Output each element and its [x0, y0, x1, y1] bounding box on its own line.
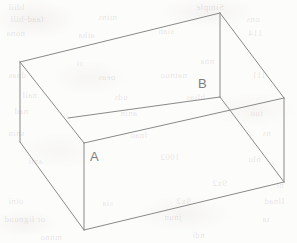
edge-rim-front: [84, 98, 284, 143]
edge-base-front: [84, 182, 284, 230]
edge-inner-floor-back: [68, 97, 220, 118]
edge-rim-back: [20, 13, 220, 62]
edge-inner-floor-right: [220, 97, 284, 182]
edge-rim-left: [20, 62, 84, 143]
edge-rim-right: [220, 13, 284, 98]
edge-base-front-left: [20, 142, 84, 230]
box-diagram-figure: ldiilSimplefaad-hillminsonsnonaathasian1…: [0, 0, 297, 243]
vertex-label-b: B: [198, 77, 207, 90]
vertex-label-a: A: [90, 150, 99, 163]
box-wireframe-svg: [0, 0, 297, 243]
